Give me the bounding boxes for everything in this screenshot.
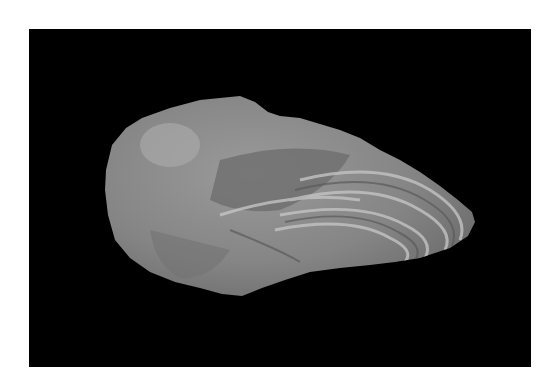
stone-artifact-photo [0, 0, 554, 383]
stone-body [100, 90, 480, 300]
